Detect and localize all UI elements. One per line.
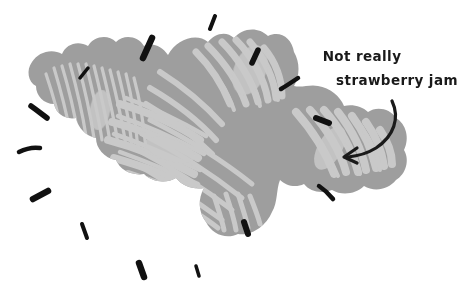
splash-mark bbox=[262, 22, 267, 32]
splash-mark bbox=[139, 263, 144, 277]
splash-mark bbox=[196, 266, 199, 276]
splash-mark bbox=[19, 148, 40, 152]
splash-mark bbox=[244, 222, 248, 234]
splash-mark bbox=[82, 224, 87, 238]
annotation-line-2: strawberry jam bbox=[336, 72, 458, 88]
splash-mark bbox=[210, 16, 215, 29]
annotation-line-1: Not really bbox=[323, 48, 402, 64]
illustration-canvas: Not really strawberry jam bbox=[0, 0, 464, 293]
illustration-svg: Not really strawberry jam bbox=[0, 0, 464, 293]
splash-mark bbox=[31, 106, 47, 118]
splash-mark bbox=[33, 191, 48, 199]
